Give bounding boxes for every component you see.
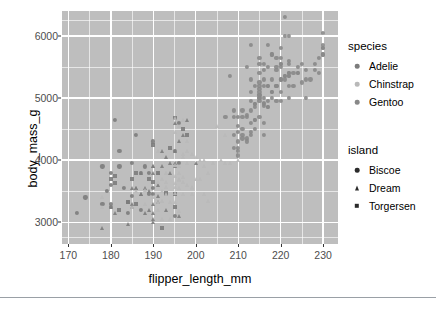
data-point <box>249 77 253 81</box>
data-point <box>100 195 104 199</box>
legend-key-circle-icon <box>348 57 366 75</box>
x-axis-tick-mark <box>153 244 154 247</box>
data-point <box>100 205 104 209</box>
data-point <box>240 108 244 112</box>
data-point <box>223 133 227 137</box>
data-point <box>257 115 261 119</box>
data-point <box>164 208 168 212</box>
data-point <box>257 56 261 60</box>
data-point <box>177 214 181 218</box>
legend-item-chinstrap[interactable]: Chinstrap <box>348 75 436 93</box>
legend-key-triangle-icon <box>348 179 366 197</box>
data-point <box>190 192 194 196</box>
x-axis-tick-labels: 170180190200210220230 <box>62 250 338 266</box>
y-axis-tick-mark <box>58 222 61 223</box>
data-point <box>156 171 160 175</box>
data-point <box>134 133 138 137</box>
legend-key-circle-icon <box>348 75 366 93</box>
data-point <box>75 211 79 215</box>
x-axis-tick-label: 200 <box>176 250 216 261</box>
x-axis-tick-mark <box>281 244 282 247</box>
legend-item-gentoo[interactable]: Gentoo <box>348 93 436 111</box>
data-point <box>262 77 266 81</box>
x-axis-tick-label: 230 <box>303 250 343 261</box>
data-point <box>104 189 108 193</box>
gridline-major-horizontal <box>62 222 338 223</box>
legend-item-torgersen[interactable]: Torgersen <box>348 197 436 215</box>
data-point <box>185 139 189 143</box>
data-point <box>160 177 164 181</box>
data-point <box>160 149 164 153</box>
data-point <box>202 164 206 168</box>
legend-label-chinstrap: Chinstrap <box>366 78 414 90</box>
x-axis-title: flipper_length_mm <box>62 272 338 286</box>
data-point <box>270 90 274 94</box>
data-point <box>266 99 270 103</box>
data-point <box>177 171 181 175</box>
data-point <box>211 161 215 165</box>
legend-item-dream[interactable]: Dream <box>348 179 436 197</box>
data-point <box>232 115 236 119</box>
data-point <box>177 139 181 143</box>
data-point <box>266 83 270 87</box>
legend-key-circle-icon <box>348 93 366 111</box>
data-point <box>181 133 185 137</box>
data-point <box>113 174 117 178</box>
y-axis-tick-label: 4000 <box>24 155 58 166</box>
data-point <box>156 194 160 198</box>
gridline-minor-vertical <box>89 11 90 244</box>
data-point <box>291 83 295 87</box>
data-point <box>262 121 266 125</box>
plot-panel <box>62 11 338 244</box>
data-point <box>236 158 240 162</box>
data-point <box>223 115 227 119</box>
data-point <box>177 209 181 213</box>
data-point <box>279 90 283 94</box>
data-point <box>228 74 232 78</box>
data-point <box>164 192 168 196</box>
data-point <box>266 65 270 69</box>
data-point <box>121 186 125 190</box>
data-point <box>160 217 164 221</box>
data-point <box>173 163 177 167</box>
data-point <box>279 77 283 81</box>
data-point <box>139 192 143 196</box>
x-axis-tick-label: 220 <box>261 250 301 261</box>
y-axis-tick-label: 5000 <box>24 93 58 104</box>
data-point <box>249 108 253 112</box>
y-axis-tick-label: 3000 <box>24 217 58 228</box>
data-point <box>185 133 189 137</box>
legend-item-biscoe[interactable]: Biscoe <box>348 161 436 179</box>
data-point <box>185 118 189 122</box>
data-point <box>236 153 240 157</box>
data-point <box>173 200 177 204</box>
legend-item-adelie[interactable]: Adelie <box>348 57 436 75</box>
data-point <box>160 164 164 168</box>
data-point <box>126 222 130 226</box>
data-point <box>130 194 134 198</box>
data-point <box>160 226 164 230</box>
x-axis-tick-label: 190 <box>133 250 173 261</box>
gridline-minor-vertical <box>132 11 133 244</box>
gridline-major-horizontal <box>62 97 338 98</box>
data-point <box>249 90 253 94</box>
data-point <box>177 124 181 128</box>
data-point <box>215 124 219 128</box>
data-point <box>300 62 304 66</box>
data-point <box>113 181 117 185</box>
data-point <box>185 149 189 153</box>
gridline-major-vertical <box>68 11 69 244</box>
gridline-major-vertical <box>195 11 196 244</box>
data-point <box>232 108 236 112</box>
data-point <box>283 34 287 38</box>
x-axis-tick-label: 210 <box>218 250 258 261</box>
data-point <box>164 171 168 175</box>
data-point <box>130 177 134 181</box>
data-point <box>321 52 325 56</box>
data-point <box>100 226 104 230</box>
data-point <box>266 105 270 109</box>
data-point <box>232 133 236 137</box>
scatter-plot-figure: body_mass_g 3000400050006000 17018019020… <box>0 0 436 297</box>
data-point <box>304 68 308 72</box>
data-point <box>109 183 113 187</box>
